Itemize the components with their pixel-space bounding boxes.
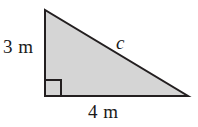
hypotenuse-label: c <box>116 33 124 52</box>
right-triangle-figure: 3 m 4 m c <box>0 0 198 127</box>
triangle-shape <box>45 10 188 96</box>
vertical-leg-label: 3 m <box>3 37 34 56</box>
horizontal-leg-label: 4 m <box>88 102 119 121</box>
